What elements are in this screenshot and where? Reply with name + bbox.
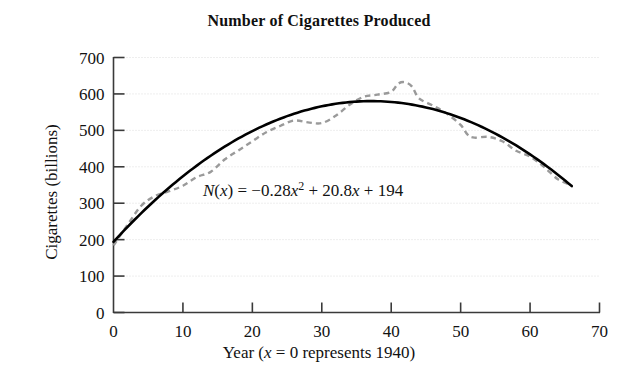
x-tick-label: 50 <box>452 322 469 341</box>
y-axis-ticks <box>114 58 125 313</box>
y-tick-label: 100 <box>79 267 105 286</box>
chart-figure: Number of Cigarettes Produced Cigarettes… <box>0 0 638 381</box>
y-tick-label: 300 <box>79 194 105 213</box>
y-tick-label: 0 <box>96 304 105 323</box>
x-tick-label: 30 <box>313 322 330 341</box>
y-tick-label: 400 <box>79 158 105 177</box>
model-equation-annotation: N(x) = −0.28x2 + 20.8x + 194 <box>202 179 404 200</box>
y-tick-label: 700 <box>79 49 105 68</box>
x-tick-label: 0 <box>109 322 118 341</box>
x-tick-label: 10 <box>174 322 191 341</box>
x-tick-label: 40 <box>383 322 400 341</box>
y-tick-label: 200 <box>79 231 105 250</box>
gridlines <box>115 58 601 277</box>
plot-canvas: 0100200300400500600700 010203040506070 N… <box>0 0 638 381</box>
y-tick-label: 600 <box>79 85 105 104</box>
series-model-curve <box>114 101 572 242</box>
y-axis-tick-labels: 0100200300400500600700 <box>79 49 105 323</box>
x-axis-tick-labels: 010203040506070 <box>109 322 608 341</box>
x-tick-label: 20 <box>244 322 261 341</box>
x-axis-ticks <box>183 303 600 313</box>
series-actual-data-line <box>114 82 572 245</box>
x-tick-label: 70 <box>591 322 608 341</box>
x-tick-label: 60 <box>522 322 539 341</box>
y-tick-label: 500 <box>79 121 105 140</box>
